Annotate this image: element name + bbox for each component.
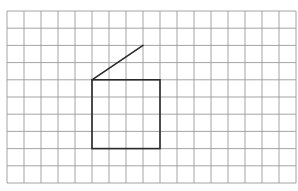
grid-diagram [0, 0, 298, 191]
